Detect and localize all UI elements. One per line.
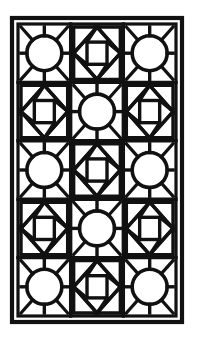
lattice-panel-drawing (0, 0, 197, 339)
artboard: Geometric Lattice Grille Panel Black-and… (0, 0, 197, 339)
